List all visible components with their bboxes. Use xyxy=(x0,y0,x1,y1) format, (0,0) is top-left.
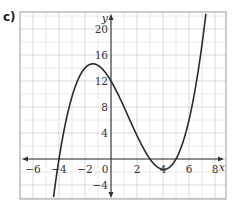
x-tick-label: 6 xyxy=(186,163,193,175)
x-tick-label: 0 xyxy=(102,163,109,175)
x-axis-arrow-left-icon xyxy=(22,157,28,162)
x-axis-label: x xyxy=(219,161,226,174)
y-axis-arrow-down-icon xyxy=(109,192,114,198)
y-tick-label: −4 xyxy=(93,179,109,191)
cubic-graph: −6−4−202468−448121620xy xyxy=(0,0,238,209)
y-axis-arrow-up-icon xyxy=(109,14,114,20)
x-tick-label: 2 xyxy=(134,163,141,175)
y-axis-label: y xyxy=(101,12,109,25)
y-tick-label: 16 xyxy=(95,49,109,61)
x-tick-label: −6 xyxy=(25,163,41,175)
x-tick-label: 8 xyxy=(212,163,219,175)
y-tick-label: 8 xyxy=(101,101,108,113)
y-tick-label: 4 xyxy=(101,127,108,139)
y-tick-label: 12 xyxy=(95,75,108,87)
x-tick-label: −4 xyxy=(51,163,67,175)
x-tick-label: −2 xyxy=(77,163,92,175)
